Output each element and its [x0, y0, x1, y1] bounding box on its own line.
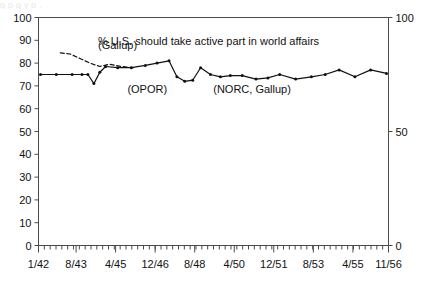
data-point [86, 73, 89, 76]
annotation-label: (OPOR) [127, 83, 167, 95]
y-tick-label-left: 10 [19, 217, 31, 229]
x-tick-label: 8/53 [303, 258, 324, 270]
y-tick-label-left: 100 [13, 12, 31, 24]
y-tick-label-left: 80 [19, 57, 31, 69]
y-tick-label-left: 30 [19, 171, 31, 183]
annotation-label: (NORC, Gallup) [213, 83, 291, 95]
x-tick-label: 11/56 [375, 258, 402, 270]
data-point [116, 66, 119, 69]
line-chart: 10090807060504030201001005001/428/434/45… [0, 0, 422, 282]
y-tick-label-left: 20 [19, 194, 31, 206]
data-point [81, 73, 84, 76]
y-tick-label-left: 50 [19, 126, 31, 138]
x-tick-label: 8/43 [65, 258, 86, 270]
data-point [92, 82, 95, 85]
data-point [294, 78, 297, 81]
y-tick-label-left: 90 [19, 34, 31, 46]
data-point [191, 79, 194, 82]
y-tick-label-left: 0 [25, 240, 31, 252]
data-point [338, 68, 341, 71]
data-point [175, 75, 178, 78]
data-point [369, 68, 372, 71]
x-tick-label: 4/50 [224, 258, 245, 270]
y-tick-label-left: 40 [19, 148, 31, 160]
data-point [209, 73, 212, 76]
data-point [385, 72, 388, 75]
x-tick-label: 8/48 [184, 258, 205, 270]
data-point [39, 73, 42, 76]
x-tick-label: 12/46 [141, 258, 169, 270]
x-tick-label: 4/55 [342, 258, 363, 270]
data-point [156, 62, 159, 65]
annotation-label: (Gallup) [98, 39, 137, 51]
x-tick-label: 4/45 [105, 258, 126, 270]
data-point [353, 75, 356, 78]
data-point [144, 64, 147, 67]
x-tick-label: 12/51 [260, 258, 288, 270]
data-point [98, 71, 101, 74]
y-tick-label-left: 60 [19, 103, 31, 115]
data-point [241, 74, 244, 77]
data-point [255, 78, 258, 81]
y-tick-label-left: 70 [19, 80, 31, 92]
data-point [71, 73, 74, 76]
x-tick-label: 1/42 [28, 258, 49, 270]
data-point [324, 73, 327, 76]
data-point [183, 80, 186, 83]
data-point [199, 66, 202, 69]
data-point [219, 75, 222, 78]
series-line-2 [60, 53, 133, 68]
data-point [278, 73, 281, 76]
y-tick-label-right: 100 [396, 12, 414, 24]
data-point [168, 59, 171, 62]
y-tick-label-right: 0 [396, 240, 402, 252]
data-point [229, 74, 232, 77]
y-tick-label-right: 50 [396, 126, 408, 138]
data-point [310, 75, 313, 78]
data-point [266, 76, 269, 79]
chart-screenshot: g p g y p , 1009080706050403020100100500… [0, 0, 422, 282]
data-point [55, 73, 58, 76]
